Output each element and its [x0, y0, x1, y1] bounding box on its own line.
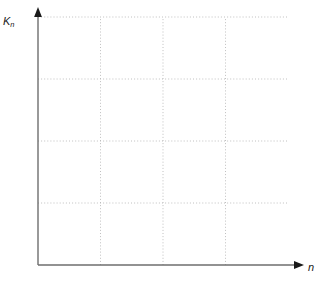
- x-axis-title-symbol: n: [308, 261, 314, 273]
- x-axis-title: n: [308, 262, 314, 273]
- axes-group: [34, 7, 304, 269]
- y-axis-title-subscript: n: [10, 20, 14, 29]
- chart-plot-area: [0, 0, 319, 304]
- y-axis-arrow-icon: [34, 7, 42, 17]
- gridlines-group: [38, 17, 288, 265]
- y-axis-title: Kn: [3, 16, 15, 27]
- chart-container: Kn n: [0, 0, 319, 304]
- x-axis-arrow-icon: [294, 261, 304, 269]
